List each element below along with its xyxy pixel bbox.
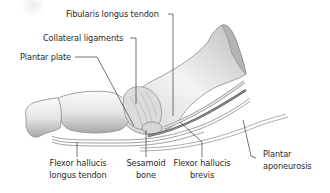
label-collateral-ligaments: Collateral ligaments	[43, 33, 123, 43]
sesamoid-bone	[142, 122, 162, 134]
label-plantar-aponeurosis: Plantar aponeurosis	[263, 149, 312, 171]
label-aponeurosis-line2: aponeurosis	[263, 161, 312, 171]
label-sesamoid-line1: Sesamoid	[126, 158, 166, 168]
label-fibularis-longus-tendon: Fibularis longus tendon	[66, 9, 159, 19]
label-fhl-line2: longus tendon	[44, 170, 112, 180]
proximal-phalanx	[58, 91, 131, 133]
label-sesamoid-bone: Sesamoid bone	[126, 158, 166, 180]
distal-phalanx	[25, 98, 61, 137]
label-sesamoid-line2: bone	[126, 170, 166, 180]
label-plantar-plate: Plantar plate	[20, 52, 71, 62]
label-aponeurosis-line1: Plantar	[263, 149, 312, 159]
label-flexor-hallucis-brevis: Flexor hallucis brevis	[168, 158, 236, 180]
leader-fhb	[180, 122, 202, 157]
label-fhl-line1: Flexor hallucis	[44, 158, 112, 168]
decorative-circle	[21, 0, 45, 17]
label-fhb-line1: Flexor hallucis	[168, 158, 236, 168]
anatomy-diagram: Fibularis longus tendon Collateral ligam…	[0, 0, 330, 193]
label-fhb-line2: brevis	[168, 170, 236, 180]
label-flexor-hallucis-longus-tendon: Flexor hallucis longus tendon	[44, 158, 112, 180]
